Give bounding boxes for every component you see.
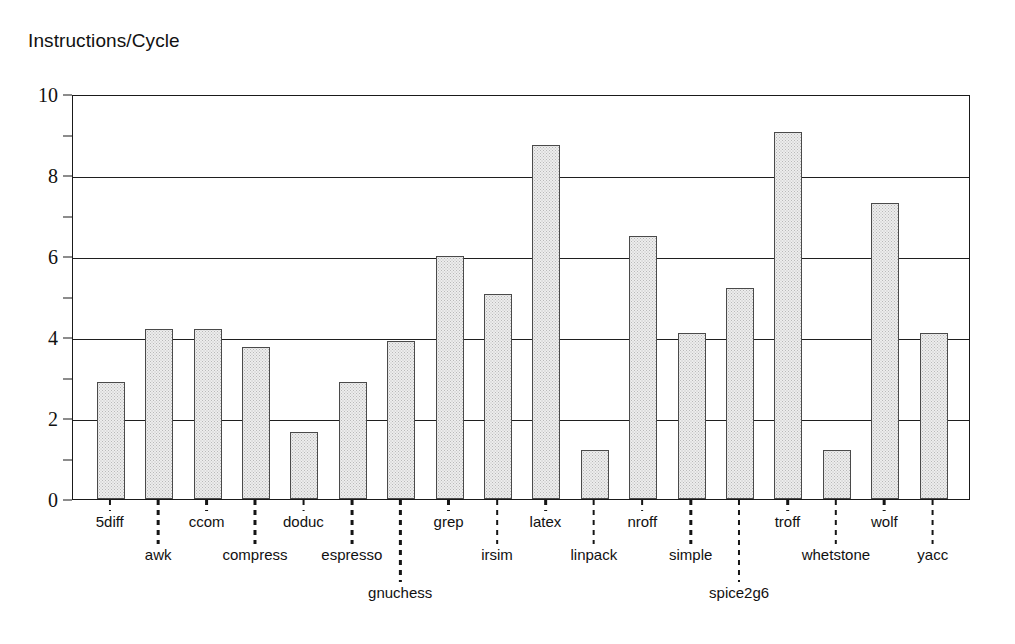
y-tick-label-2: 2	[48, 408, 58, 431]
y-tick-major-0	[63, 500, 72, 501]
y-axis: 0246810	[0, 95, 72, 500]
x-label-spice2g6: spice2g6	[709, 500, 769, 600]
x-label-yacc: yacc	[917, 500, 948, 562]
leader-line-awk	[157, 500, 160, 544]
bar-5diff	[97, 382, 125, 499]
x-label-text-nroff: nroff	[627, 514, 657, 529]
bar-spice2g6	[726, 288, 754, 499]
y-tick-minor-1	[63, 459, 72, 460]
bar-compress	[242, 347, 270, 499]
leader-line-espresso	[351, 500, 354, 544]
x-label-text-5diff: 5diff	[96, 514, 124, 529]
bar-irsim	[484, 294, 512, 499]
bar-doduc	[290, 432, 318, 499]
x-label-irsim: irsim	[481, 500, 513, 562]
bar-troff	[774, 132, 802, 499]
x-label-text-doduc: doduc	[283, 514, 324, 529]
x-label-5diff: 5diff	[96, 500, 124, 529]
leader-line-latex	[544, 500, 547, 511]
x-label-text-whetstone: whetstone	[802, 547, 870, 562]
x-label-text-latex: latex	[530, 514, 562, 529]
leader-line-yacc	[931, 500, 934, 544]
y-tick-label-10: 10	[38, 84, 58, 107]
y-tick-minor-7	[63, 216, 72, 217]
x-label-text-simple: simple	[669, 547, 712, 562]
leader-line-whetstone	[835, 500, 838, 544]
x-label-gnuchess: gnuchess	[368, 500, 432, 600]
y-tick-minor-3	[63, 378, 72, 379]
plot-area	[72, 95, 970, 500]
leader-line-irsim	[496, 500, 499, 544]
bar-awk	[145, 329, 173, 499]
bar-nroff	[629, 236, 657, 499]
x-label-text-linpack: linpack	[570, 547, 617, 562]
x-label-troff: troff	[775, 500, 801, 529]
bar-espresso	[339, 382, 367, 499]
y-tick-major-2	[63, 419, 72, 420]
bars-layer	[73, 96, 969, 499]
leader-line-grep	[447, 500, 450, 511]
bar-linpack	[581, 450, 609, 499]
x-label-text-troff: troff	[775, 514, 801, 529]
leader-line-doduc	[302, 500, 305, 511]
y-tick-major-6	[63, 257, 72, 258]
x-label-wolf: wolf	[871, 500, 898, 529]
leader-line-nroff	[641, 500, 644, 511]
x-label-text-grep: grep	[434, 514, 464, 529]
y-tick-minor-5	[63, 297, 72, 298]
y-tick-label-0: 0	[48, 489, 58, 512]
bar-wolf	[871, 203, 899, 499]
x-label-text-awk: awk	[145, 547, 172, 562]
x-label-awk: awk	[145, 500, 172, 562]
bar-ccom	[194, 329, 222, 499]
y-tick-major-10	[63, 95, 72, 96]
y-tick-label-8: 8	[48, 165, 58, 188]
y-tick-minor-9	[63, 135, 72, 136]
x-axis-labels: 5diffawkccomcompressdoducespressognuches…	[72, 500, 970, 640]
x-label-latex: latex	[530, 500, 562, 529]
bar-whetstone	[823, 450, 851, 499]
x-label-text-gnuchess: gnuchess	[368, 585, 432, 600]
x-label-text-compress: compress	[222, 547, 287, 562]
leader-line-gnuchess	[399, 500, 402, 582]
y-tick-label-6: 6	[48, 246, 58, 269]
x-label-text-spice2g6: spice2g6	[709, 585, 769, 600]
bar-simple	[678, 333, 706, 499]
leader-line-spice2g6	[738, 500, 741, 582]
leader-line-5diff	[108, 500, 111, 511]
leader-line-simple	[689, 500, 692, 544]
bar-gnuchess	[387, 341, 415, 499]
y-tick-label-4: 4	[48, 327, 58, 350]
x-label-nroff: nroff	[627, 500, 657, 529]
x-label-linpack: linpack	[570, 500, 617, 562]
leader-line-compress	[254, 500, 257, 544]
y-tick-major-4	[63, 338, 72, 339]
y-tick-major-8	[63, 176, 72, 177]
bar-latex	[532, 145, 560, 499]
x-label-text-wolf: wolf	[871, 514, 898, 529]
x-label-text-yacc: yacc	[917, 547, 948, 562]
chart-title: Instructions/Cycle	[28, 30, 180, 52]
x-label-ccom: ccom	[189, 500, 225, 529]
leader-line-wolf	[883, 500, 886, 511]
x-label-simple: simple	[669, 500, 712, 562]
leader-line-ccom	[205, 500, 208, 511]
bar-yacc	[920, 333, 948, 499]
x-label-text-irsim: irsim	[481, 547, 513, 562]
x-label-grep: grep	[434, 500, 464, 529]
leader-line-troff	[786, 500, 789, 511]
x-label-whetstone: whetstone	[802, 500, 870, 562]
x-label-compress: compress	[222, 500, 287, 562]
x-label-doduc: doduc	[283, 500, 324, 529]
bar-grep	[436, 256, 464, 499]
x-label-text-ccom: ccom	[189, 514, 225, 529]
leader-line-linpack	[593, 500, 596, 544]
